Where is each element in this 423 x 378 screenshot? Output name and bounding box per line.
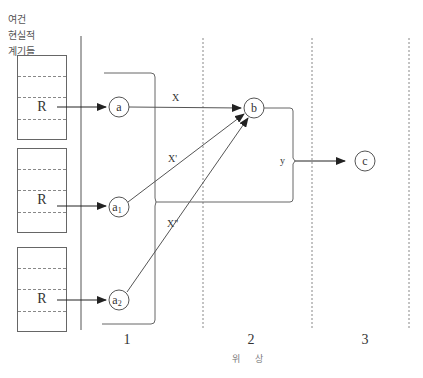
phase-label-1: 1	[117, 332, 137, 348]
phase-label-2: 2	[241, 332, 261, 348]
edge-x-prime-label: X'	[168, 153, 177, 164]
process-diagram: a a1 a2 b c X X' X" y	[0, 0, 423, 378]
edge-y-label: y	[280, 155, 285, 166]
edge-x-prime	[128, 114, 244, 202]
node-a-label: a	[116, 100, 122, 114]
edge-x	[129, 107, 241, 108]
phase-axis-label: 위 상	[232, 352, 269, 365]
phase-label-3: 3	[355, 332, 375, 348]
node-c-label: c	[362, 154, 367, 168]
edge-x-double-prime	[127, 118, 248, 292]
edge-x-label: X	[172, 92, 180, 103]
edge-x-double-prime-label: X"	[167, 218, 178, 229]
node-b-label: b	[251, 101, 257, 115]
